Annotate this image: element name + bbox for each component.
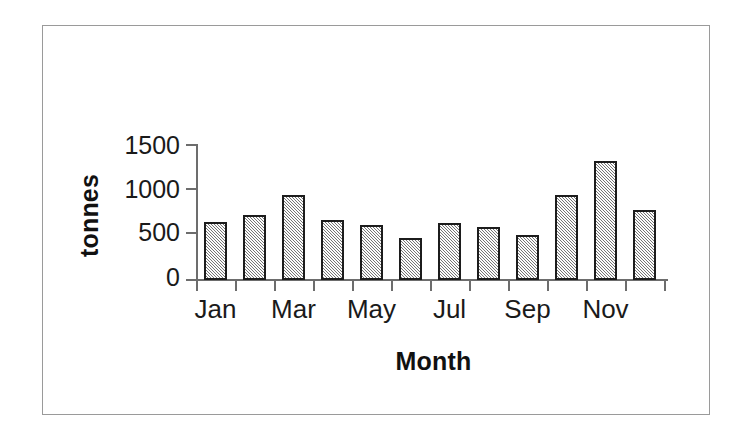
y-tick-label-1500: 1500 xyxy=(124,133,180,158)
x-tick-mark-10 xyxy=(586,281,588,291)
x-tick-label-mar: Mar xyxy=(249,296,339,322)
bar-mar xyxy=(282,195,305,281)
x-tick-label-sep: Sep xyxy=(483,296,573,322)
bar-sep xyxy=(516,235,539,280)
x-tick-label-nov: Nov xyxy=(561,296,651,322)
x-axis-title-text: Month xyxy=(396,347,472,376)
y-tick-label-1000: 1000 xyxy=(124,177,180,202)
x-tick-label-jan: Jan xyxy=(171,296,261,322)
bar-aug xyxy=(477,227,500,280)
bar-dec xyxy=(633,210,656,280)
bar-oct xyxy=(555,195,578,280)
y-tick-label-500: 500 xyxy=(138,220,180,245)
x-tick-mark-6 xyxy=(430,281,432,291)
bar-nov xyxy=(594,161,617,280)
plot-area xyxy=(196,145,664,280)
x-tick-mark-4 xyxy=(352,281,354,291)
x-tick-mark-0 xyxy=(196,281,198,291)
x-tick-mark-2 xyxy=(274,281,276,291)
bar-jan xyxy=(204,222,227,281)
x-tick-mark-1 xyxy=(235,281,237,291)
x-tick-mark-12 xyxy=(664,281,666,291)
x-tick-mark-3 xyxy=(313,281,315,291)
chart-figure: tonnes 1500 1000 500 0 Jan Mar May Jul S… xyxy=(0,0,743,440)
bar-jul xyxy=(438,223,461,280)
bar-jun xyxy=(399,238,422,280)
x-axis-title: Month xyxy=(0,347,743,376)
bar-feb xyxy=(243,215,266,280)
x-tick-mark-11 xyxy=(625,281,627,291)
x-tick-mark-7 xyxy=(469,281,471,291)
x-tick-label-may: May xyxy=(327,296,417,322)
x-tick-mark-8 xyxy=(508,281,510,291)
x-tick-label-jul: Jul xyxy=(405,296,495,322)
y-tick-label-0: 0 xyxy=(166,265,180,290)
x-tick-mark-5 xyxy=(391,281,393,291)
x-tick-mark-9 xyxy=(547,281,549,291)
bar-apr xyxy=(321,220,344,280)
bar-may xyxy=(360,225,383,280)
